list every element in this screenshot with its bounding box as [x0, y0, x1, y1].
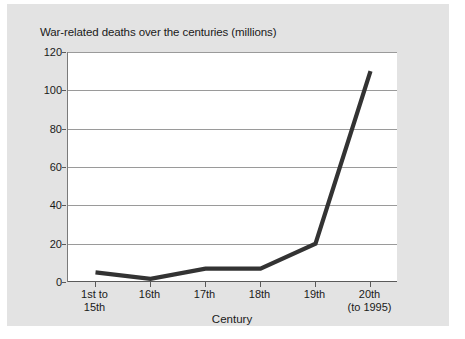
- x-axis-tick-mark: [95, 282, 96, 287]
- x-axis-tick-label-line: 17th: [194, 288, 215, 301]
- y-axis-tick-label: 20: [50, 238, 62, 250]
- x-axis-tick-mark: [205, 282, 206, 287]
- x-axis-tick-label-line: 1st to: [81, 288, 108, 301]
- y-axis-tick-mark: [62, 52, 66, 53]
- y-axis-tick-label: 40: [50, 199, 62, 211]
- x-axis-tick-label: 16th: [139, 288, 160, 301]
- x-axis-tick-mark: [150, 282, 151, 287]
- x-axis-tick-label-line: 16th: [139, 288, 160, 301]
- y-axis-tick-mark: [62, 282, 66, 283]
- chart-figure: War-related deaths over the centuries (m…: [0, 0, 465, 339]
- y-axis-tick-mark: [62, 90, 66, 91]
- x-axis-tick-label-line: 20th: [347, 288, 391, 301]
- plot-area: [67, 52, 397, 282]
- x-axis-tick-mark: [315, 282, 316, 287]
- y-axis-tick-mark: [62, 205, 66, 206]
- chart-title: War-related deaths over the centuries (m…: [40, 26, 276, 38]
- x-axis-tick-label-line: 15th: [81, 301, 108, 314]
- x-axis-tick-label: 1st to15th: [81, 288, 108, 313]
- x-axis-tick-mark: [370, 282, 371, 287]
- x-axis-tick-label-line: (to 1995): [347, 301, 391, 314]
- x-axis-tick-label-line: 19th: [304, 288, 325, 301]
- x-axis-tick-label: 18th: [249, 288, 270, 301]
- x-axis-tick-label: 19th: [304, 288, 325, 301]
- x-axis-tick-label: 17th: [194, 288, 215, 301]
- y-axis-tick-mark: [62, 244, 66, 245]
- y-axis-tick-mark: [62, 167, 66, 168]
- y-axis-tick-label: 80: [50, 123, 62, 135]
- y-axis-tick-mark: [62, 129, 66, 130]
- y-axis-tick-label: 100: [44, 84, 62, 96]
- data-series-line: [68, 52, 398, 282]
- chart-panel: War-related deaths over the centuries (m…: [7, 4, 449, 326]
- y-axis-tick-label: 120: [44, 46, 62, 58]
- y-axis-tick-label: 60: [50, 161, 62, 173]
- x-axis-title: Century: [67, 313, 397, 325]
- x-axis-tick-mark: [260, 282, 261, 287]
- y-axis-tick-labels: 020406080100120: [17, 52, 62, 282]
- x-axis-tick-label: 20th(to 1995): [347, 288, 391, 313]
- x-axis-tick-label-line: 18th: [249, 288, 270, 301]
